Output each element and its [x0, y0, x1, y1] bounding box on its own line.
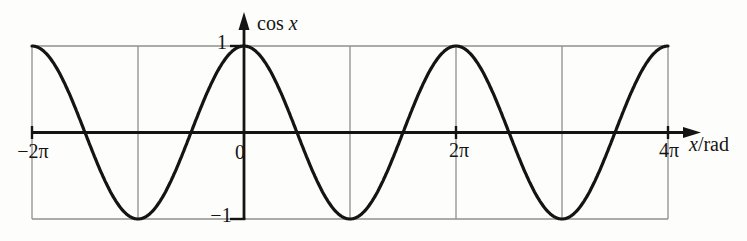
x-tick-label-2pi: 2π [449, 140, 469, 160]
cos-function-text: cos [257, 12, 284, 34]
plot-canvas [0, 0, 747, 241]
y-axis-title: cosx [257, 13, 298, 33]
x-tick-label-4pi: 4π [659, 140, 679, 160]
cosine-graph-figure: cosx x/rad 1 −1 0 −2π 2π 4π [0, 0, 747, 241]
y-tick-label-one: 1 [217, 32, 227, 52]
x-axis-title: x/rad [689, 134, 729, 154]
rad-unit-text: /rad [698, 133, 729, 155]
x-variable-text: x [289, 12, 298, 34]
x-variable-text: x [689, 133, 698, 155]
y-tick-label-minus-one: −1 [210, 205, 231, 225]
origin-label: 0 [235, 142, 245, 162]
y-axis-arrowhead [239, 12, 250, 30]
x-tick-label-minus-2pi: −2π [17, 141, 48, 161]
